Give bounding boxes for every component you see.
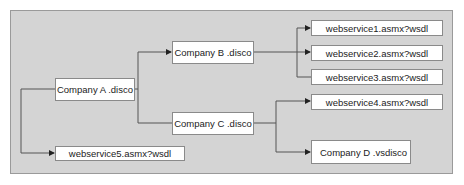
node-webservice4: webservice4.asmx?wsdl xyxy=(311,94,443,110)
node-webservice5: webservice5.asmx?wsdl xyxy=(55,146,185,161)
node-webservice1: webservice1.asmx?wsdl xyxy=(311,20,443,36)
node-webservice2: webservice2.asmx?wsdl xyxy=(311,45,443,61)
node-company-b: Company B .disco xyxy=(172,41,254,64)
node-webservice3: webservice3.asmx?wsdl xyxy=(311,69,443,85)
node-company-a: Company A .disco xyxy=(55,78,135,101)
node-company-c: Company C .disco xyxy=(172,112,254,135)
node-company-d: Company D .vsdisco xyxy=(311,140,411,164)
